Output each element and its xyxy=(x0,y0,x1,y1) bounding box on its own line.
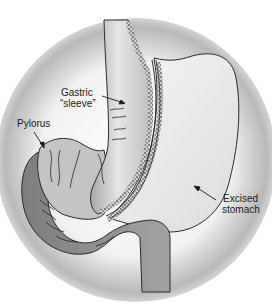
label-gastric-sleeve-line2: “sleeve” xyxy=(60,98,96,109)
label-gastric-sleeve-line1: Gastric xyxy=(60,87,96,98)
label-pylorus: Pylorus xyxy=(17,118,50,129)
label-excised-stomach: Excised stomach xyxy=(222,193,260,215)
label-gastric-sleeve: Gastric “sleeve” xyxy=(60,87,96,109)
sleeve-gastrectomy-diagram: Gastric “sleeve” Pylorus Excised stomach xyxy=(0,0,272,306)
anatomy-illustration xyxy=(0,0,272,306)
label-excised-stomach-line2: stomach xyxy=(222,204,260,215)
label-excised-stomach-line1: Excised xyxy=(222,193,260,204)
